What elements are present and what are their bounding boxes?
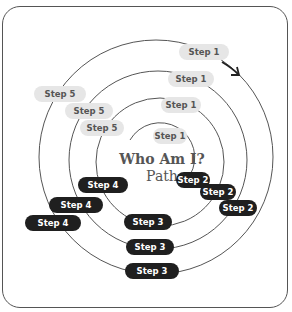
step-5-pill: Step 5	[34, 86, 86, 102]
step-1-pill: Step 1	[168, 71, 214, 87]
step-4-pill: Step 4	[78, 177, 128, 193]
step-1-pill: Step 1	[179, 44, 229, 60]
step-3-pill: Step 3	[125, 263, 179, 279]
step-2-pill: Step 2	[219, 200, 257, 216]
step-2-pill: Step 2	[200, 184, 236, 200]
title-line-1: Who Am I?	[112, 151, 212, 168]
step-5-pill: Step 5	[80, 120, 124, 136]
step-1-pill: Step 1	[153, 128, 187, 144]
step-3-pill: Step 3	[124, 214, 172, 230]
step-5-pill: Step 5	[65, 103, 113, 119]
step-1-pill: Step 1	[161, 97, 201, 113]
step-4-pill: Step 4	[25, 215, 81, 231]
step-3-pill: Step 3	[126, 239, 174, 255]
curved-arrow-icon	[222, 62, 239, 75]
step-4-pill: Step 4	[49, 197, 103, 213]
